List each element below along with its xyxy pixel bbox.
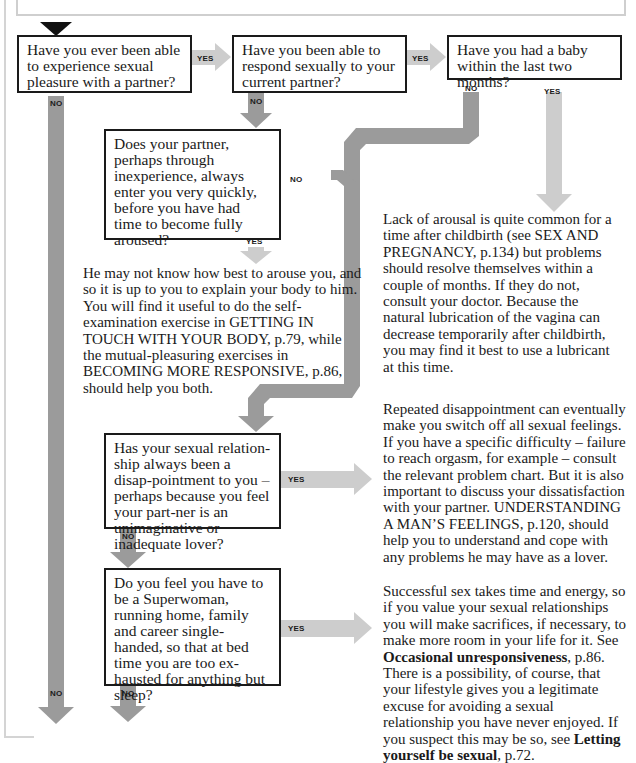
question-text: Does your partner, perhaps through inexp… bbox=[114, 135, 257, 248]
answer-superwoman: Successful sex takes time and energy, so… bbox=[383, 583, 628, 763]
question-box-q5: Has your sexual relation-ship always bee… bbox=[104, 433, 281, 529]
q1-yes-label: YES bbox=[197, 54, 214, 63]
question-box-q3: Have you had a baby within the last two … bbox=[447, 35, 622, 80]
q4-yes-arrowhead-icon bbox=[240, 251, 272, 264]
q6-yes-label: YES bbox=[288, 624, 305, 633]
q3-yes-arrowhead-icon bbox=[536, 194, 572, 212]
q2-no-label: NO bbox=[250, 97, 262, 106]
merge-arrowhead-icon bbox=[238, 416, 274, 432]
q1-no-arrowhead-icon bbox=[38, 707, 74, 724]
question-box-q4: Does your partner, perhaps through inexp… bbox=[104, 129, 281, 240]
question-box-q2: Have you been able to respond sexually t… bbox=[232, 35, 407, 93]
q2-no-arrowhead-icon bbox=[240, 113, 272, 128]
q4-no-label: NO bbox=[290, 175, 302, 184]
link-occasional-unresponsiveness: Occasional unresponsiveness bbox=[383, 649, 567, 665]
question-box-q1: Have you ever been able to experience se… bbox=[17, 35, 192, 93]
q2-yes-label: YES bbox=[412, 54, 429, 63]
q3-no-path bbox=[344, 92, 479, 200]
question-text: Do you feel you have to be a Superwoman,… bbox=[114, 574, 265, 703]
q5-no-arrowhead-icon bbox=[110, 552, 146, 568]
q1-yes-arrowhead-icon bbox=[215, 43, 231, 71]
q5-yes-label: YES bbox=[288, 475, 305, 484]
q6-yes-arrowhead-icon bbox=[354, 612, 372, 644]
q5-yes-arrowhead-icon bbox=[354, 463, 372, 495]
q1-no-path bbox=[48, 96, 64, 696]
q2-yes-arrowhead-icon bbox=[430, 43, 446, 71]
q3-yes-label: YES bbox=[544, 87, 561, 96]
q1-no-bottom-label: NO bbox=[50, 689, 62, 698]
start-marker-icon bbox=[40, 22, 72, 36]
q1-no-label: NO bbox=[50, 99, 62, 108]
question-text: Have you been able to respond sexually t… bbox=[242, 41, 395, 90]
q3-yes-path bbox=[546, 92, 562, 196]
q6-no-arrowhead-icon bbox=[110, 706, 146, 722]
answer-disappointment: Repeated disappointment can eventually m… bbox=[383, 401, 628, 565]
answer-baby: Lack of arousal is quite common for a ti… bbox=[383, 211, 623, 375]
question-box-q6: Do you feel you have to be a Superwoman,… bbox=[104, 568, 281, 686]
answer-partner: He may not know how best to arouse you, … bbox=[83, 265, 363, 396]
question-text: Have you ever been able to experience se… bbox=[27, 41, 180, 90]
